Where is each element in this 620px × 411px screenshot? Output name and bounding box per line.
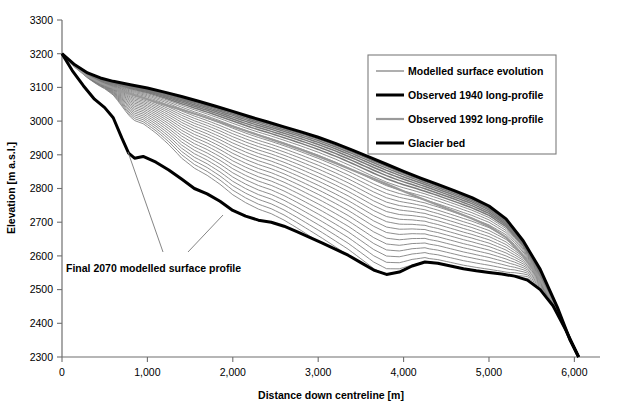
x-axis-ticks: 01,0002,0003,0004,0005,0006,000: [59, 357, 588, 378]
legend-label: Observed 1940 long-profile: [408, 89, 544, 101]
x-tick-label: 4,000: [390, 366, 416, 378]
chart-legend: Modelled surface evolutionObserved 1940 …: [368, 55, 556, 154]
y-axis-title: Elevation [m a.s.l.]: [5, 142, 17, 234]
legend-label: Glacier bed: [408, 137, 465, 149]
y-tick-label: 3200: [30, 48, 54, 60]
annotation-leader-line-2: [188, 215, 223, 252]
y-axis-ticks: 2300240025002600270028002900300031003200…: [30, 14, 62, 363]
x-tick-label: 2,000: [220, 366, 246, 378]
x-tick-label: 6,000: [561, 366, 587, 378]
y-tick-label: 2600: [30, 250, 54, 262]
annotation-final-2070: Final 2070 modelled surface profile: [66, 152, 241, 274]
y-tick-label: 2700: [30, 216, 54, 228]
y-tick-label: 3100: [30, 81, 54, 93]
y-tick-label: 2900: [30, 149, 54, 161]
chart-canvas: 2300240025002600270028002900300031003200…: [0, 0, 620, 411]
y-tick-label: 3000: [30, 115, 54, 127]
x-tick-label: 3,000: [305, 366, 331, 378]
x-tick-label: 5,000: [476, 366, 502, 378]
y-tick-label: 3300: [30, 14, 54, 26]
legend-label: Modelled surface evolution: [408, 65, 543, 77]
annotation-leader-line-1: [128, 152, 163, 252]
annotation-label: Final 2070 modelled surface profile: [66, 262, 241, 274]
x-tick-label: 0: [59, 366, 65, 378]
y-tick-label: 2400: [30, 317, 54, 329]
chart-figure: 2300240025002600270028002900300031003200…: [0, 0, 620, 411]
x-tick-label: 1,000: [134, 366, 160, 378]
y-tick-label: 2500: [30, 283, 54, 295]
y-tick-label: 2800: [30, 182, 54, 194]
x-axis-title: Distance down centreline [m]: [258, 389, 404, 401]
y-tick-label: 2300: [30, 351, 54, 363]
legend-label: Observed 1992 long-profile: [408, 113, 544, 125]
